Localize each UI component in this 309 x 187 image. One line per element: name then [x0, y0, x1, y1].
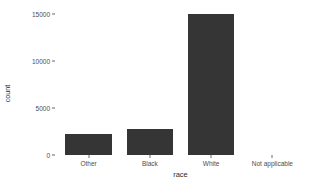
y-axis-tick-mark — [52, 14, 55, 15]
x-axis-tick-label: Not applicable — [252, 160, 293, 167]
x-axis-title: race — [58, 170, 303, 179]
bar-group — [181, 6, 242, 155]
y-axis-tick-mark — [52, 61, 55, 62]
x-axis-tick-mark — [211, 155, 212, 158]
x-axis-tick-mark — [88, 155, 89, 158]
y-axis-tick-mark — [52, 155, 55, 156]
y-axis-tick-label: 5000 — [36, 105, 50, 112]
y-axis-tick-label: 15000 — [32, 11, 50, 18]
x-axis-tick-mark — [272, 155, 273, 158]
x-axis-tick-label: Other — [80, 160, 96, 167]
plot-area — [58, 6, 303, 155]
bar — [127, 129, 174, 155]
x-axis-tick-label: Black — [142, 160, 158, 167]
bar-group — [58, 6, 119, 155]
bar — [188, 14, 235, 156]
x-axis-tick-label: White — [203, 160, 220, 167]
y-axis-tick-label: 0 — [46, 152, 50, 159]
bar-chart: count 050001000015000 OtherBlackWhiteNot… — [0, 0, 309, 187]
y-axis-tick-label: 10000 — [32, 58, 50, 65]
bar-group — [242, 6, 303, 155]
x-axis-tick-mark — [149, 155, 150, 158]
bar-group — [119, 6, 180, 155]
bar — [65, 134, 112, 155]
y-axis: 050001000015000 — [0, 0, 58, 187]
y-axis-tick-mark — [52, 108, 55, 109]
